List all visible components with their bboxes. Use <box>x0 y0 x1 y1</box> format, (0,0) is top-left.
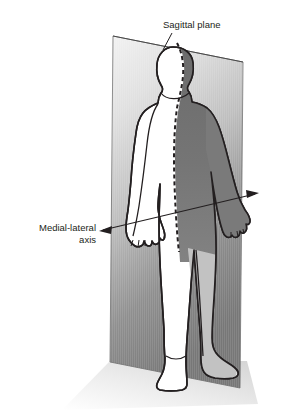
medial-lateral-axis-label-line2: axis <box>79 234 96 245</box>
anatomical-diagram: Sagittal plane Medial-lateral axis <box>0 0 292 414</box>
sagittal-plane-label: Sagittal plane <box>163 19 221 30</box>
diagram-canvas: Sagittal plane Medial-lateral axis <box>0 0 292 414</box>
medial-lateral-axis-label-line1: Medial-lateral <box>39 222 96 233</box>
